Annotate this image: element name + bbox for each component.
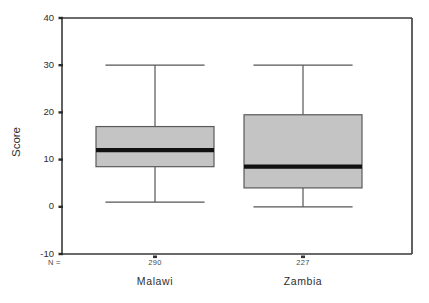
boxplot-chart: 403020100-10 Score N = 290227 MalawiZamb… bbox=[0, 0, 429, 303]
n-prefix-label: N = bbox=[48, 258, 61, 267]
y-tick-label: 20 bbox=[43, 106, 54, 117]
box-iqr-rect bbox=[244, 115, 362, 188]
n-value-label: 227 bbox=[296, 258, 309, 267]
y-tick-label: 30 bbox=[43, 59, 54, 70]
box-iqr-rect bbox=[96, 127, 214, 167]
y-axis-title: Score bbox=[10, 127, 22, 157]
n-value-label: 290 bbox=[148, 258, 161, 267]
y-tick-label: -10 bbox=[40, 248, 54, 259]
y-tick-label: 0 bbox=[49, 200, 54, 211]
y-tick-label: 10 bbox=[43, 153, 54, 164]
y-tick-label: 40 bbox=[43, 12, 54, 23]
category-label-zambia: Zambia bbox=[284, 275, 323, 287]
boxplot-canvas: 403020100-10 Score N = 290227 MalawiZamb… bbox=[0, 0, 429, 303]
category-label-malawi: Malawi bbox=[137, 275, 173, 287]
